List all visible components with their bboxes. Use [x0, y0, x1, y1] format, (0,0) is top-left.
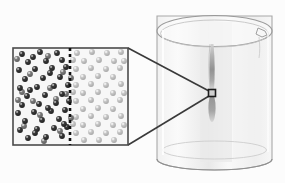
particle-highlight — [97, 58, 99, 60]
particle-highlight — [122, 91, 124, 93]
particle-highlight — [40, 118, 42, 120]
particle-highlight — [44, 135, 46, 137]
particle-highlight — [96, 74, 98, 76]
particle-dark — [15, 110, 21, 116]
particle-highlight — [66, 83, 68, 85]
particle-light — [104, 50, 110, 56]
particle-dark — [61, 121, 67, 127]
particle-highlight — [50, 66, 52, 68]
particle-highlight — [74, 99, 76, 101]
particle-highlight — [104, 83, 106, 85]
particle-highlight — [38, 50, 40, 52]
particle-light — [118, 49, 124, 55]
particle-light — [95, 89, 101, 95]
particle-highlight — [71, 58, 73, 60]
particle-dark — [16, 67, 22, 73]
particle-highlight — [61, 70, 63, 72]
particle-highlight — [60, 92, 62, 94]
particle-highlight — [81, 123, 83, 125]
particle-highlight — [33, 67, 35, 69]
particle-dark — [24, 93, 30, 99]
particle-highlight — [48, 86, 50, 88]
particle-highlight — [111, 91, 113, 93]
particle-highlight — [104, 115, 106, 117]
particle-highlight — [89, 130, 91, 132]
particle-highlight — [54, 101, 56, 103]
particle-dark — [42, 92, 48, 98]
particle-mid — [27, 71, 33, 77]
particle-light — [80, 122, 86, 128]
particle-highlight — [122, 123, 124, 125]
particle-mid — [45, 53, 51, 59]
particle-highlight — [60, 58, 62, 60]
particle-highlight — [89, 82, 91, 84]
particle-highlight — [33, 131, 35, 133]
particle-dark — [43, 58, 49, 64]
particle-light — [88, 129, 94, 135]
particle-highlight — [64, 65, 66, 67]
particle-highlight — [112, 59, 114, 61]
particle-light — [117, 97, 123, 103]
particle-highlight — [52, 84, 54, 86]
particle-dark — [40, 75, 46, 81]
particle-highlight — [43, 93, 45, 95]
particle-dark — [19, 51, 25, 57]
particle-light — [73, 82, 79, 88]
particle-light — [80, 90, 86, 96]
particle-light — [110, 106, 116, 112]
particle-mid — [57, 128, 63, 134]
particle-light — [96, 137, 102, 143]
particle-highlight — [58, 129, 60, 131]
figure-canvas — [0, 0, 285, 183]
particle-highlight — [18, 128, 20, 130]
particle-light — [110, 122, 116, 128]
particle-highlight — [62, 122, 64, 124]
particle-light — [88, 81, 94, 87]
particle-dark — [59, 91, 65, 97]
particle-dark — [31, 109, 37, 115]
particle-light — [95, 105, 101, 111]
particle-highlight — [31, 55, 33, 57]
particle-light — [89, 49, 95, 55]
particle-highlight — [42, 139, 44, 141]
particle-dark — [51, 125, 57, 131]
particle-highlight — [16, 111, 18, 113]
dye-streak-lower — [208, 94, 215, 122]
particle-highlight — [48, 71, 50, 73]
particle-light — [73, 98, 79, 104]
particle-highlight — [96, 106, 98, 108]
particle-light — [88, 113, 94, 119]
particle-highlight — [26, 60, 28, 62]
particle-highlight — [89, 114, 91, 116]
particle-light — [117, 129, 123, 135]
particle-light — [121, 90, 127, 96]
particle-light — [74, 50, 80, 56]
particle-highlight — [119, 50, 121, 52]
particle-highlight — [25, 94, 27, 96]
particle-highlight — [118, 98, 120, 100]
particle-highlight — [31, 99, 33, 101]
particle-dark — [17, 127, 23, 133]
particle-light — [80, 74, 86, 80]
particle-light — [95, 121, 101, 127]
marker-square — [209, 90, 216, 97]
particle-light — [88, 97, 94, 103]
particle-mid — [15, 97, 21, 103]
particle-light — [103, 98, 109, 104]
particle-highlight — [104, 99, 106, 101]
particle-dark — [39, 117, 45, 123]
particle-dark — [49, 65, 55, 71]
particle-highlight — [71, 90, 73, 92]
particle-dark — [34, 84, 40, 90]
particle-light — [121, 58, 127, 64]
particle-highlight — [28, 72, 30, 74]
particle-light — [117, 65, 123, 71]
particle-mid — [14, 56, 20, 62]
particle-highlight — [32, 110, 34, 112]
particle-dark — [25, 59, 31, 65]
particle-highlight — [52, 126, 54, 128]
particle-highlight — [71, 122, 73, 124]
particle-highlight — [58, 75, 60, 77]
particle-highlight — [60, 134, 62, 136]
particle-light — [81, 58, 87, 64]
